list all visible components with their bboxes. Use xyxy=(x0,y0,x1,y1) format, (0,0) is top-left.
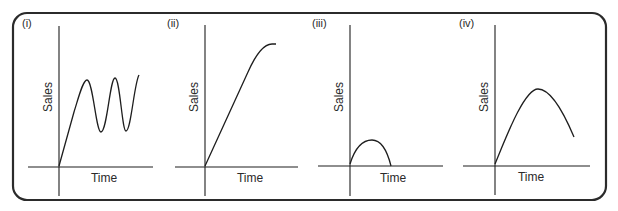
y-axis-title: Sales xyxy=(477,82,491,112)
product-life-cycle-figure: (i) Sales Time (ii) Sales Time (iii) Sal… xyxy=(0,0,618,211)
sales-curve xyxy=(350,140,391,166)
panel-i: (i) Sales Time xyxy=(22,17,153,196)
y-axis-title: Sales xyxy=(187,82,201,112)
panel-label: (iii) xyxy=(312,17,327,29)
y-axis-title: Sales xyxy=(332,82,346,112)
y-axis-title: Sales xyxy=(41,82,55,112)
panel-label: (ii) xyxy=(167,17,179,29)
sales-curve xyxy=(205,44,276,166)
sales-curve xyxy=(59,75,139,166)
panel-label: (i) xyxy=(22,17,32,29)
panel-ii: (ii) Sales Time xyxy=(167,17,298,196)
panel-iii: (iii) Sales Time xyxy=(312,17,443,196)
x-axis-title: Time xyxy=(91,171,118,185)
x-axis-title: Time xyxy=(380,171,407,185)
sales-curve xyxy=(495,89,574,164)
panel-iv: (iv) Sales Time xyxy=(459,17,590,195)
x-axis-title: Time xyxy=(237,171,264,185)
x-axis-title: Time xyxy=(518,170,545,184)
panel-label: (iv) xyxy=(459,17,474,29)
